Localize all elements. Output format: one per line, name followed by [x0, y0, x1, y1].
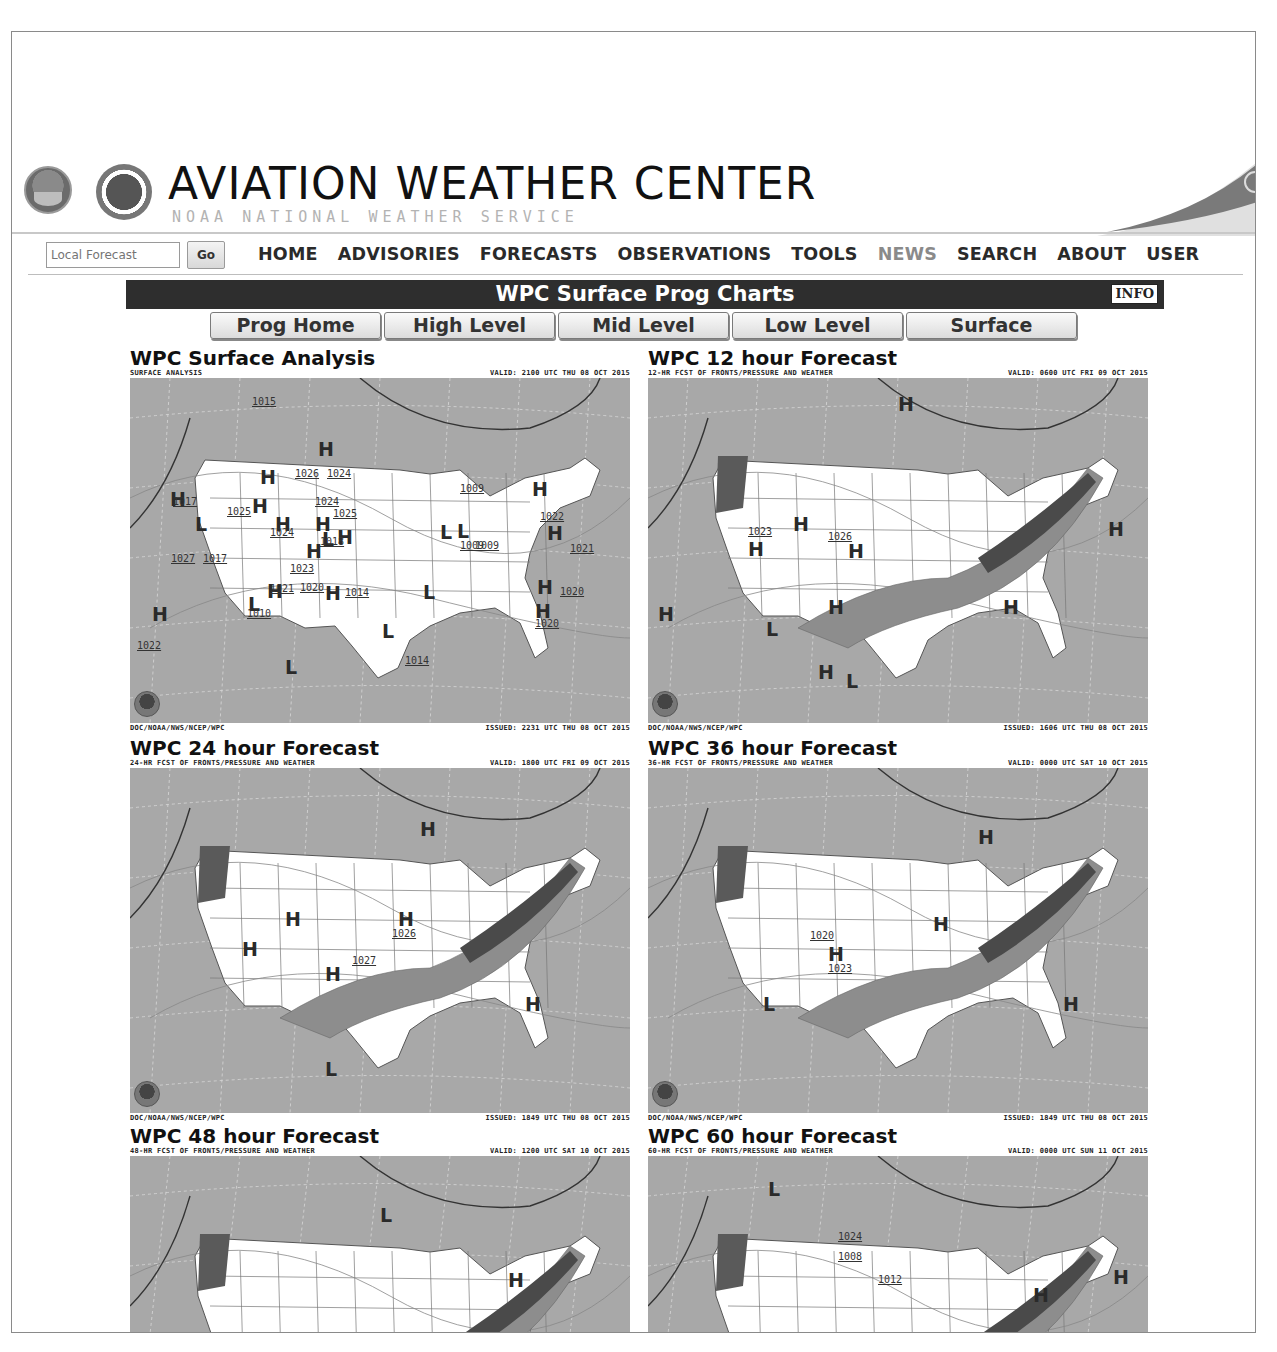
high-pressure-marker: H: [152, 603, 168, 625]
isobar-label: 1027: [352, 955, 376, 966]
high-pressure-marker: H: [1113, 1266, 1129, 1288]
isobar-label: 1012: [878, 1274, 902, 1285]
chart-footer: DOC/NOAA/NWS/NCEP/WPC ISSUED: 1849 UTC T…: [130, 1113, 630, 1123]
high-pressure-marker: H: [1063, 993, 1079, 1015]
isobar-label: 1022: [540, 511, 564, 522]
go-button[interactable]: Go: [187, 241, 225, 269]
chart-footer: DOC/NOAA/NWS/NCEP/WPC ISSUED: 1606 UTC T…: [648, 723, 1148, 733]
page-title-bar: WPC Surface Prog Charts INFO: [126, 280, 1164, 309]
isobar-label: 1014: [345, 587, 369, 598]
site-header: AVIATION WEATHER CENTER NOAA NATIONAL WE…: [12, 152, 1256, 232]
high-pressure-marker: H: [242, 938, 258, 960]
high-pressure-marker: H: [325, 963, 341, 985]
high-pressure-marker: H: [1108, 518, 1124, 540]
isobar-label: 1024: [838, 1231, 862, 1242]
chart-credit: DOC/NOAA/NWS/NCEP/WPC: [648, 1113, 743, 1123]
tab-surface[interactable]: Surface: [906, 312, 1077, 339]
low-pressure-marker: L: [285, 656, 297, 678]
isobar-label: 1022: [137, 640, 161, 651]
chart-map-image[interactable]: HHHHHHHHHHHHHHHLLLLLLLL10151026102410241…: [130, 378, 630, 723]
chart-meta: SURFACE ANALYSIS VALID: 2100 UTC THU 08 …: [130, 369, 630, 378]
isobar-label: 1009: [460, 483, 484, 494]
high-pressure-marker: H: [537, 576, 553, 598]
high-pressure-marker: H: [325, 582, 341, 604]
chart-title: WPC 48 hour Forecast: [130, 1125, 630, 1147]
chart-product: 60-HR FCST OF FRONTS/PRESSURE AND WEATHE…: [648, 1147, 833, 1156]
nav-tools[interactable]: TOOLS: [791, 244, 857, 264]
high-pressure-marker: H: [748, 538, 764, 560]
isobar-label: 1026: [392, 928, 416, 939]
chart-issued: ISSUED: 1849 UTC THU 08 OCT 2015: [486, 1113, 630, 1123]
tab-low-level[interactable]: Low Level: [732, 312, 903, 339]
browser-page: AVIATION WEATHER CENTER NOAA NATIONAL WE…: [11, 31, 1256, 1333]
chart-credit: DOC/NOAA/NWS/NCEP/WPC: [648, 723, 743, 733]
nav-about[interactable]: ABOUT: [1057, 244, 1126, 264]
chart-product: 24-HR FCST OF FRONTS/PRESSURE AND WEATHE…: [130, 759, 315, 768]
low-pressure-marker: L: [423, 581, 435, 603]
noaa-logo-icon[interactable]: [24, 166, 72, 214]
noaa-watermark-icon: [652, 1081, 678, 1107]
high-pressure-marker: H: [1033, 1284, 1049, 1306]
nav-home[interactable]: HOME: [258, 244, 318, 264]
low-pressure-marker: L: [768, 1178, 780, 1200]
chart-valid: VALID: 1200 UTC SAT 10 OCT 2015: [490, 1147, 630, 1156]
high-pressure-marker: H: [398, 908, 414, 930]
tab-high-level[interactable]: High Level: [384, 312, 555, 339]
isobar-label: 1026: [828, 531, 852, 542]
high-pressure-marker: H: [508, 1269, 524, 1291]
noaa-watermark-icon: [652, 691, 678, 717]
nav-observations[interactable]: OBSERVATIONS: [617, 244, 771, 264]
chart-map-image[interactable]: HL: [130, 1156, 630, 1333]
chart-meta: 36-HR FCST OF FRONTS/PRESSURE AND WEATHE…: [648, 759, 1148, 768]
chart-map-image[interactable]: HHHHHHL10261027: [130, 768, 630, 1113]
nav-search[interactable]: SEARCH: [957, 244, 1037, 264]
high-pressure-marker: H: [828, 943, 844, 965]
chart-map-image[interactable]: HHHHL10231020: [648, 768, 1148, 1113]
high-pressure-marker: H: [1003, 596, 1019, 618]
chart-36hr-forecast: WPC 36 hour Forecast 36-HR FCST OF FRONT…: [648, 737, 1148, 1123]
isobar-label: 1027: [171, 553, 195, 564]
high-pressure-marker: H: [532, 478, 548, 500]
chart-map-image[interactable]: HHHHHHHHHLL10261023: [648, 378, 1148, 723]
chart-footer: DOC/NOAA/NWS/NCEP/WPC ISSUED: 1849 UTC T…: [648, 1113, 1148, 1123]
isobar-label: 1008: [838, 1251, 862, 1262]
isobar-label: 1023: [290, 563, 314, 574]
nav-divider: [28, 274, 1243, 275]
weather-map-graphic: [648, 1156, 1148, 1333]
chart-issued: ISSUED: 1606 UTC THU 08 OCT 2015: [1004, 723, 1148, 733]
high-pressure-marker: H: [793, 513, 809, 535]
high-pressure-marker: H: [898, 393, 914, 415]
isobar-label: 1020: [300, 582, 324, 593]
nav-news[interactable]: NEWS: [878, 244, 937, 264]
nav-advisories[interactable]: ADVISORIES: [338, 244, 460, 264]
nws-logo-icon[interactable]: [96, 164, 152, 220]
chart-valid: VALID: 0000 UTC SAT 10 OCT 2015: [1008, 759, 1148, 768]
nav-forecasts[interactable]: FORECASTS: [480, 244, 598, 264]
chart-meta: 12-HR FCST OF FRONTS/PRESSURE AND WEATHE…: [648, 369, 1148, 378]
site-title[interactable]: AVIATION WEATHER CENTER: [168, 158, 816, 209]
tab-mid-level[interactable]: Mid Level: [558, 312, 729, 339]
isobar-label: 1023: [828, 963, 852, 974]
isobar-label: 1020: [810, 930, 834, 941]
nav-user[interactable]: USER: [1146, 244, 1199, 264]
low-pressure-marker: L: [195, 513, 207, 535]
weather-map-graphic: [648, 378, 1148, 723]
local-forecast-input[interactable]: [46, 242, 180, 268]
chart-surface-analysis: WPC Surface Analysis SURFACE ANALYSIS VA…: [130, 347, 630, 733]
header-swoosh-icon: [1097, 152, 1256, 236]
isobar-label: 1026: [295, 468, 319, 479]
low-pressure-marker: L: [457, 520, 469, 542]
tab-prog-home[interactable]: Prog Home: [210, 312, 381, 339]
info-button[interactable]: INFO: [1111, 284, 1158, 304]
high-pressure-marker: H: [818, 661, 834, 683]
isobar-label: 1009: [475, 540, 499, 551]
isobar-label: 1010: [247, 608, 271, 619]
high-pressure-marker: H: [285, 908, 301, 930]
high-pressure-marker: H: [420, 818, 436, 840]
high-pressure-marker: H: [658, 603, 674, 625]
site-subtitle: NOAA NATIONAL WEATHER SERVICE: [172, 208, 579, 226]
isobar-label: 1018: [320, 536, 344, 547]
chart-map-image[interactable]: HHL102410081012: [648, 1156, 1148, 1333]
chart-title: WPC 60 hour Forecast: [648, 1125, 1148, 1147]
chart-valid: VALID: 0600 UTC FRI 09 OCT 2015: [1008, 369, 1148, 378]
